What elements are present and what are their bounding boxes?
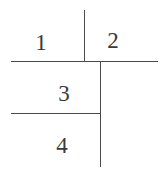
label-1: 1 [35,31,47,54]
horizontal-line-top [11,61,158,62]
label-4: 4 [56,134,68,157]
label-3: 3 [58,82,70,105]
horizontal-line-middle [11,113,101,114]
vertical-line-top [84,10,85,62]
label-2: 2 [107,29,119,52]
vertical-line-bottom [100,62,101,167]
